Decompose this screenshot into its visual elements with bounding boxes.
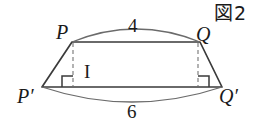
vertex-label-q-prime: Q′ — [219, 86, 238, 106]
right-right-angle-icon — [198, 76, 209, 87]
vertex-label-i: I — [84, 62, 90, 81]
figure-caption: 図2 — [214, 4, 247, 23]
vertex-label-q: Q — [196, 24, 210, 44]
vertex-label-p-prime: P′ — [17, 86, 34, 106]
length-label-top: 4 — [128, 16, 138, 35]
vertex-label-p: P — [56, 22, 68, 42]
trapezoid-shape — [42, 42, 222, 87]
length-label-bottom: 6 — [127, 102, 137, 121]
left-right-angle-icon — [62, 76, 73, 87]
bottom-arc — [42, 87, 222, 102]
figure-container: P Q P′ Q′ I 4 6 図2 — [0, 0, 273, 130]
